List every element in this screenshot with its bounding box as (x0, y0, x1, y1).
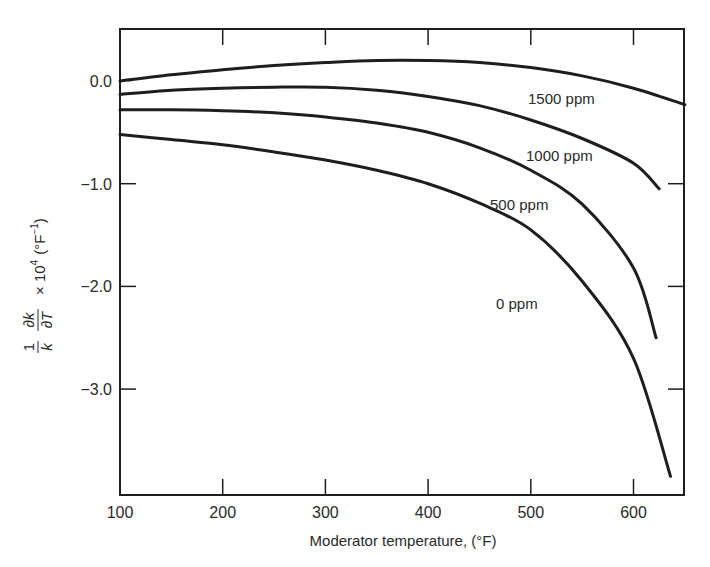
y-title-frac1-den: k (38, 342, 55, 351)
x-tick-label: 500 (517, 504, 544, 521)
y-title-frac2-den: ∂T (38, 310, 55, 328)
y-axis-title: 1 k ∂k ∂T × 104(°F−1) (20, 218, 55, 353)
curve-label-500ppm: 500 ppm (490, 196, 548, 213)
y-title-frac2-num: ∂k (20, 311, 37, 327)
y-axis-ticks (120, 184, 684, 389)
chart: 100200300400500600 0.0−1.0−2.0−3.0 1500 … (0, 0, 710, 567)
y-tick-label: −2.0 (80, 278, 112, 295)
curve-1500ppm (120, 60, 685, 104)
curve-0ppm (120, 134, 671, 476)
x-tick-label: 200 (209, 504, 236, 521)
y-title-frac1-num: 1 (20, 343, 37, 351)
curve-500ppm (120, 110, 656, 338)
x-tick-labels: 100200300400500600 (107, 504, 647, 521)
plot-frame (120, 29, 684, 495)
curves (120, 60, 685, 476)
y-tick-labels: 0.0−1.0−2.0−3.0 (80, 73, 112, 398)
x-tick-label: 100 (107, 504, 134, 521)
x-tick-label: 300 (312, 504, 339, 521)
y-tick-label: 0.0 (90, 73, 112, 90)
curve-label-0ppm: 0 ppm (496, 295, 538, 312)
curve-label-1500ppm: 1500 ppm (528, 90, 595, 107)
y-title-scale: × 104(°F−1) (29, 218, 48, 295)
curve-label-1000ppm: 1000 ppm (526, 147, 593, 164)
x-tick-label: 600 (620, 504, 647, 521)
x-axis-title: Moderator temperature, (°F) (310, 532, 497, 549)
x-tick-label: 400 (415, 504, 442, 521)
y-tick-label: −1.0 (80, 176, 112, 193)
y-tick-label: −3.0 (80, 381, 112, 398)
